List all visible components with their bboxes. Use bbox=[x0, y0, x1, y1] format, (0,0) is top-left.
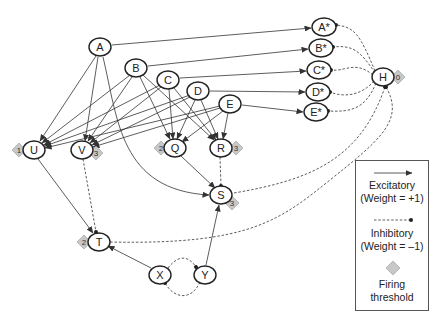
svg-text:3: 3 bbox=[234, 144, 239, 153]
node-Q: Q bbox=[164, 139, 186, 157]
svg-text:1: 1 bbox=[17, 146, 22, 155]
node-D: D bbox=[187, 82, 209, 100]
node-H: H bbox=[372, 68, 394, 86]
svg-text:Y: Y bbox=[201, 269, 209, 281]
legend-inhibitory-label: Inhibitory bbox=[356, 227, 428, 240]
legend-excitatory-weight: (Weight = +1) bbox=[356, 192, 428, 205]
node-B: B bbox=[125, 59, 147, 77]
svg-text:R: R bbox=[217, 142, 225, 154]
legend-threshold-label: Firing bbox=[356, 278, 428, 291]
svg-text:U: U bbox=[30, 144, 38, 156]
node-D-star: D* bbox=[306, 83, 330, 101]
svg-text:0: 0 bbox=[396, 73, 401, 82]
node-X: X bbox=[149, 266, 171, 284]
legend-excitatory-label: Excitatory bbox=[356, 179, 428, 192]
neural-network-diagram: 1 3 2 3 3 2 0 A B C D E U V Q R S T X Y … bbox=[0, 0, 442, 324]
svg-text:E*: E* bbox=[310, 106, 322, 118]
threshold-diamond-icon bbox=[386, 261, 400, 275]
svg-text:A*: A* bbox=[318, 21, 330, 33]
svg-text:Q: Q bbox=[171, 142, 180, 154]
node-S: S bbox=[210, 186, 232, 204]
node-A: A bbox=[89, 38, 111, 56]
svg-text:D*: D* bbox=[312, 86, 325, 98]
node-C: C bbox=[157, 71, 179, 89]
svg-text:E: E bbox=[226, 98, 233, 110]
node-A-star: A* bbox=[312, 18, 336, 36]
svg-text:2: 2 bbox=[159, 144, 164, 153]
svg-text:X: X bbox=[156, 269, 164, 281]
node-E-star: E* bbox=[304, 103, 328, 121]
svg-text:B: B bbox=[132, 62, 139, 74]
legend-inhibitory-weight: (Weight = –1) bbox=[356, 240, 428, 253]
node-V: V bbox=[71, 141, 93, 159]
legend-box: Excitatory (Weight = +1) Inhibitory (Wei… bbox=[355, 160, 429, 311]
svg-text:C*: C* bbox=[313, 64, 326, 76]
svg-text:D: D bbox=[194, 85, 202, 97]
svg-text:3: 3 bbox=[94, 149, 99, 158]
node-C-star: C* bbox=[307, 61, 331, 79]
svg-text:A: A bbox=[96, 41, 104, 53]
node-U: U bbox=[23, 141, 45, 159]
node-R: R bbox=[210, 139, 232, 157]
node-T: T bbox=[88, 233, 110, 251]
svg-text:H: H bbox=[379, 71, 387, 83]
svg-text:S: S bbox=[217, 189, 224, 201]
svg-text:B*: B* bbox=[315, 42, 327, 54]
node-Y: Y bbox=[194, 266, 216, 284]
svg-text:V: V bbox=[78, 144, 86, 156]
svg-text:C: C bbox=[164, 74, 172, 86]
svg-text:T: T bbox=[96, 236, 103, 248]
node-E: E bbox=[219, 95, 241, 113]
node-B-star: B* bbox=[309, 39, 333, 57]
svg-text:2: 2 bbox=[82, 238, 87, 247]
legend-threshold-label-2: threshold bbox=[356, 291, 428, 304]
